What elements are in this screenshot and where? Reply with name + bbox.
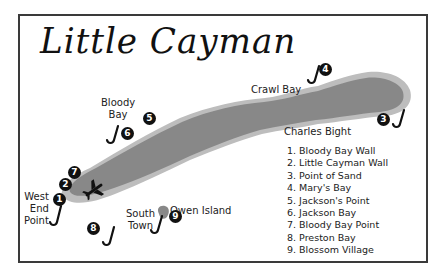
dive-hook-icon-4 (308, 66, 319, 83)
label-west-end-line1: West (24, 191, 49, 203)
marker-1[interactable]: 1 (53, 193, 66, 206)
label-west-end-point: West End Point (24, 191, 49, 227)
label-bloody-bay-line1: Bloody (101, 97, 135, 109)
label-south-town-line1: South (126, 208, 155, 220)
label-south-town: South Town (126, 208, 155, 232)
dive-hook-icon-1 (50, 206, 61, 225)
legend-item: 7. Bloody Bay Point (287, 219, 388, 231)
marker-7[interactable]: 7 (68, 166, 81, 179)
marker-9[interactable]: 9 (169, 210, 182, 223)
marker-8[interactable]: 8 (87, 222, 100, 235)
label-crawl-bay: Crawl Bay (251, 84, 301, 96)
legend: 1. Bloody Bay Wall 2. Little Cayman Wall… (287, 145, 388, 257)
owen-island (158, 206, 169, 219)
legend-item: 4. Mary's Bay (287, 182, 388, 194)
legend-item: 6. Jackson Bay (287, 207, 388, 219)
label-charles-bight: Charles Bight (284, 126, 351, 138)
marker-3[interactable]: 3 (377, 113, 390, 126)
label-west-end-line2: End (24, 203, 49, 215)
legend-item: 8. Preston Bay (287, 232, 388, 244)
marker-5[interactable]: 5 (143, 112, 156, 125)
legend-item: 1. Bloody Bay Wall (287, 145, 388, 157)
dive-hook-icon-8 (103, 227, 114, 245)
legend-item: 3. Point of Sand (287, 170, 388, 182)
label-south-town-line2: Town (126, 220, 155, 232)
label-bloody-bay: Bloody Bay (101, 97, 135, 121)
legend-item: 5. Jackson's Point (287, 195, 388, 207)
marker-4[interactable]: 4 (319, 63, 332, 76)
marker-2[interactable]: 2 (59, 178, 72, 191)
legend-item: 2. Little Cayman Wall (287, 157, 388, 169)
label-west-end-line3: Point (24, 215, 49, 227)
legend-item: 9. Blossom Village (287, 244, 388, 256)
marker-6[interactable]: 6 (121, 127, 134, 140)
dive-hook-icon-6 (107, 126, 118, 143)
label-bloody-bay-line2: Bay (101, 109, 135, 121)
